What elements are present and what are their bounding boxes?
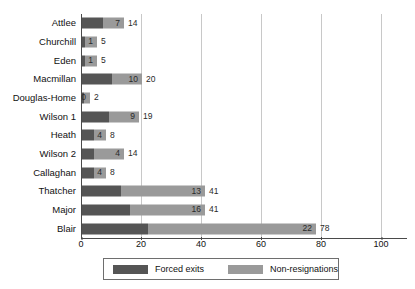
bar-segment-non-resignations: 414 xyxy=(94,148,124,159)
legend-item-forced-exits: Forced exits xyxy=(104,265,219,274)
category-label: Macmillan xyxy=(33,75,76,85)
x-tick-mark xyxy=(201,237,202,240)
bar-segment-non-resignations: 1341 xyxy=(121,186,205,197)
segment-value-label: 7 xyxy=(115,19,120,28)
x-tick-label: 60 xyxy=(256,240,266,249)
x-tick-mark xyxy=(321,237,322,240)
x-tick-label: 20 xyxy=(136,240,146,249)
total-value-label: 14 xyxy=(128,150,137,159)
bar-row: Callaghan48 xyxy=(0,163,415,182)
total-value-label: 20 xyxy=(146,75,155,84)
bar-segment-forced-exits xyxy=(82,167,94,178)
stacked-bar: 15 xyxy=(82,55,97,66)
x-tick-mark xyxy=(141,237,142,240)
bar-row: Thatcher1341 xyxy=(0,182,415,201)
bar-segment-non-resignations: 714 xyxy=(103,18,124,29)
bar-rows: Attlee714Churchill15Eden15Macmillan1020D… xyxy=(0,14,415,238)
bar-segment-forced-exits xyxy=(82,130,94,141)
total-value-label: 5 xyxy=(101,56,106,65)
bar-segment-forced-exits xyxy=(82,74,112,85)
total-value-label: 8 xyxy=(110,168,115,177)
category-label: Attlee xyxy=(52,19,76,29)
total-value-label: 8 xyxy=(110,131,115,140)
bar-row: Douglas-Home02 xyxy=(0,89,415,108)
bar-row: Macmillan1020 xyxy=(0,70,415,89)
bar-row: Wilson 1919 xyxy=(0,107,415,126)
x-tick-mark xyxy=(81,237,82,240)
category-label: Churchill xyxy=(39,37,76,47)
total-value-label: 5 xyxy=(101,38,106,47)
category-label: Wilson 2 xyxy=(40,149,76,159)
bar-row: Churchill15 xyxy=(0,33,415,52)
segment-value-label: 4 xyxy=(115,150,120,159)
x-tick-mark xyxy=(261,237,262,240)
bar-segment-non-resignations: 48 xyxy=(94,130,106,141)
total-value-label: 41 xyxy=(209,206,218,215)
bar-segment-forced-exits xyxy=(82,204,130,215)
bar-segment-non-resignations: 02 xyxy=(84,92,90,103)
category-label: Thatcher xyxy=(39,186,77,196)
category-label: Callaghan xyxy=(33,168,76,178)
legend-swatch-forced-exits xyxy=(113,265,148,274)
category-label: Wilson 1 xyxy=(40,112,76,122)
x-tick-label: 40 xyxy=(196,240,206,249)
x-tick-label: 100 xyxy=(373,240,388,249)
stacked-bar: 714 xyxy=(82,18,124,29)
bar-segment-forced-exits xyxy=(82,186,121,197)
bar-row: Blair2278 xyxy=(0,219,415,238)
stacked-bar: 1020 xyxy=(82,74,142,85)
stacked-bar: 1641 xyxy=(82,204,205,215)
legend-label-non-resignations: Non-resignations xyxy=(270,265,338,274)
bar-segment-non-resignations: 919 xyxy=(109,111,139,122)
category-label: Major xyxy=(52,205,76,215)
bar-segment-non-resignations: 1641 xyxy=(130,204,205,215)
bar-row: Eden15 xyxy=(0,51,415,70)
segment-value-label: 16 xyxy=(192,206,201,215)
segment-value-label: 1 xyxy=(88,56,93,65)
chart-legend: Forced exits Non-resignations xyxy=(103,258,339,280)
segment-value-label: 0 xyxy=(81,94,86,103)
segment-value-label: 10 xyxy=(129,75,138,84)
stacked-bar: 919 xyxy=(82,111,139,122)
bar-row: Wilson 2414 xyxy=(0,145,415,164)
x-tick-mark xyxy=(381,237,382,240)
total-value-label: 19 xyxy=(143,112,152,121)
x-axis-line xyxy=(81,238,407,239)
legend-item-non-resignations: Non-resignations xyxy=(219,265,338,274)
total-value-label: 41 xyxy=(209,187,218,196)
category-label: Heath xyxy=(51,131,76,141)
bar-segment-forced-exits xyxy=(82,148,94,159)
stacked-bar: 48 xyxy=(82,130,106,141)
stacked-bar: 1341 xyxy=(82,186,205,197)
stacked-bar: 02 xyxy=(82,92,90,103)
segment-value-label: 1 xyxy=(88,38,93,47)
bar-segment-forced-exits xyxy=(82,223,148,234)
x-axis-ticks: 020406080100 xyxy=(0,240,415,256)
segment-value-label: 4 xyxy=(97,131,102,140)
legend-swatch-non-resignations xyxy=(228,265,263,274)
bar-segment-forced-exits xyxy=(82,111,109,122)
bar-segment-non-resignations: 48 xyxy=(94,167,106,178)
segment-value-label: 22 xyxy=(303,224,312,233)
legend-label-forced-exits: Forced exits xyxy=(155,265,204,274)
stacked-bar: 15 xyxy=(82,36,97,47)
total-value-label: 78 xyxy=(320,224,329,233)
segment-value-label: 4 xyxy=(97,168,102,177)
category-label: Eden xyxy=(54,56,76,66)
stacked-bar: 48 xyxy=(82,167,106,178)
bar-segment-non-resignations: 15 xyxy=(85,55,97,66)
stacked-bar: 2278 xyxy=(82,223,316,234)
stacked-bar: 414 xyxy=(82,148,124,159)
x-tick-label: 0 xyxy=(78,240,83,249)
bar-segment-non-resignations: 1020 xyxy=(112,74,142,85)
total-value-label: 2 xyxy=(94,94,99,103)
segment-value-label: 13 xyxy=(192,187,201,196)
segment-value-label: 9 xyxy=(130,112,135,121)
bar-row: Heath48 xyxy=(0,126,415,145)
bar-row: Attlee714 xyxy=(0,14,415,33)
category-label: Douglas-Home xyxy=(13,93,76,103)
total-value-label: 14 xyxy=(128,19,137,28)
bar-segment-forced-exits xyxy=(82,18,103,29)
bar-segment-non-resignations: 15 xyxy=(85,36,97,47)
bar-row: Major1641 xyxy=(0,201,415,220)
